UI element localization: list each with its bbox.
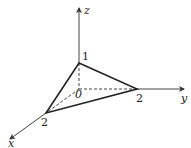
x-intercept-label: 2: [41, 116, 48, 129]
z-axis-label: z: [83, 4, 90, 17]
y-intercept-label: 2: [136, 92, 143, 105]
z-intercept-label: 1: [82, 50, 89, 63]
origin-label: 0: [75, 88, 82, 101]
plane-triangle: [46, 63, 137, 113]
coordinate-diagram: z y x 0 1 2 2: [0, 0, 191, 148]
y-axis-label: y: [180, 92, 188, 105]
x-axis-label: x: [8, 137, 15, 148]
